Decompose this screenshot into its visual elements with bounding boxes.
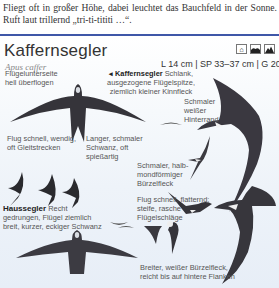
kaffernsegler-rump-illustration	[188, 136, 214, 182]
annotation-flight-fast: Flug schnell, wendig, oft Gleitstrecken	[7, 135, 79, 153]
annotation-haussegler: Haussegler Recht gedrungen, Flügel zieml…	[3, 205, 103, 231]
annotation-rump-narrow: Schmaler, halb-mondförmiger Bürzelfleck	[137, 162, 189, 188]
intro-paragraph: Fliegt oft in großer Höhe, dabei leuchte…	[3, 2, 277, 25]
building-icon: ⌂	[236, 44, 247, 54]
species-title: Kaffernsegler	[4, 41, 107, 61]
annotation-haussegler-title: Haussegler	[3, 204, 46, 213]
distant-swift-illustration	[160, 121, 182, 126]
habitat-icons: ⌂	[236, 44, 275, 54]
flight-sequence-illustration	[8, 172, 84, 208]
annotation-kaffernsegler-title: ◂ Kaffernsegler	[109, 69, 163, 78]
species-measurements: L 14 cm | SP 33–37 cm | G 20–30 g	[161, 59, 279, 69]
annotation-tail-long: Langer, schmaler Schwanz, oft spießartig	[86, 135, 158, 161]
hills-icon	[250, 44, 261, 54]
annotation-rump-broad: Breiter, weißer Bürzelfleck, reicht bis …	[140, 264, 236, 282]
annotation-hinterrand: Schmaler weißer Hinterrand	[184, 98, 238, 124]
annotation-flight-flutter: Flug schnell, flatternd; steife, rasche …	[137, 196, 227, 222]
glide-silhouette-illustration	[110, 222, 128, 227]
mountain-icon	[264, 44, 275, 54]
annotation-kaffernsegler: ◂ Kaffernsegler Schlank, ausgezogene Flü…	[103, 70, 199, 96]
annotation-underwing: Flügelunterseite hell überflogen	[5, 70, 63, 88]
